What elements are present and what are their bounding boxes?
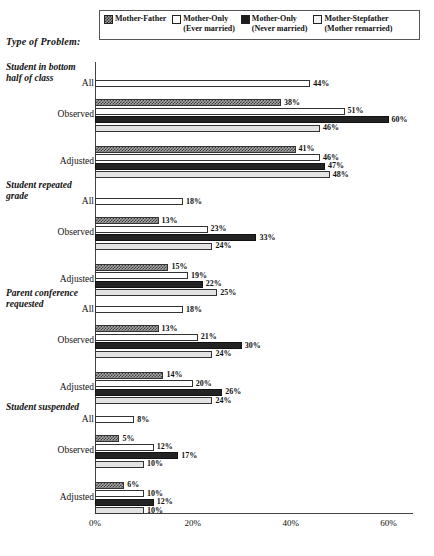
chart-legend: Mother-FatherMother-Only(Ever married)Mo…	[99, 10, 420, 40]
bar	[95, 146, 296, 153]
bar	[95, 452, 178, 459]
light-gray-swatch	[313, 15, 322, 24]
legend-item-sublabel: (Ever married)	[183, 24, 235, 34]
category-label: Adjusted	[0, 382, 94, 392]
bar	[95, 444, 154, 451]
category-label: All	[0, 78, 94, 88]
category-label: Adjusted	[0, 492, 94, 502]
bar	[95, 416, 134, 423]
category-label: Observed	[0, 109, 94, 119]
bar	[95, 99, 281, 106]
bar	[95, 154, 320, 161]
bar	[95, 234, 256, 241]
category-label: Adjusted	[0, 156, 94, 166]
bar-value-label: 14%	[166, 370, 182, 379]
bar-value-label: 41%	[299, 144, 315, 153]
x-axis-tick-label: 40%	[282, 518, 299, 528]
bar	[95, 490, 144, 497]
bar	[95, 108, 345, 115]
bar	[95, 217, 159, 224]
bar	[95, 507, 144, 514]
bar-value-label: 18%	[186, 305, 202, 314]
bar-value-label: 13%	[162, 216, 178, 225]
bar-value-label: 30%	[245, 341, 261, 350]
bar-value-label: 17%	[181, 451, 197, 460]
bar-value-label: 44%	[313, 79, 329, 88]
x-axis-tick-label: 20%	[185, 518, 202, 528]
legend-item: Mother-Stepfather(Mother remarried)	[313, 14, 392, 33]
legend-item: Mother-Only(Never married)	[241, 14, 308, 33]
category-label: Adjusted	[0, 274, 94, 284]
bar-value-label: 10%	[147, 459, 163, 468]
bar	[95, 482, 124, 489]
bar	[95, 116, 389, 123]
bar	[95, 198, 183, 205]
bar-value-label: 22%	[206, 279, 222, 288]
bar-value-label: 48%	[333, 170, 349, 179]
legend-item-label: Mother-Stepfather(Mother remarried)	[324, 14, 392, 33]
legend-item-label: Mother-Only(Never married)	[252, 14, 308, 33]
group-title: Student suspended	[6, 402, 79, 413]
bar	[95, 342, 242, 349]
white-swatch	[172, 15, 181, 24]
bar-value-label: 15%	[171, 262, 187, 271]
bar	[95, 389, 222, 396]
bar-value-label: 10%	[147, 506, 163, 515]
plot-area: 0%20%40%60%Student in bottomhalf of clas…	[0, 62, 434, 532]
legend-item: Mother-Father	[104, 14, 166, 24]
legend-item: Mother-Only(Ever married)	[172, 14, 235, 33]
legend-item-sublabel: (Mother remarried)	[324, 24, 392, 34]
bar-value-label: 38%	[284, 98, 300, 107]
chart-axis-title: Type of Problem:	[6, 36, 80, 47]
bar	[95, 272, 188, 279]
bar-value-label: 24%	[215, 349, 231, 358]
category-label: All	[0, 414, 94, 424]
bar	[95, 289, 217, 296]
crosshatch-swatch	[104, 15, 113, 24]
bar-value-label: 23%	[211, 224, 227, 233]
x-axis-tick-label: 60%	[380, 518, 397, 528]
bar	[95, 435, 119, 442]
bar	[95, 325, 159, 332]
bar	[95, 281, 203, 288]
bar-value-label: 51%	[348, 106, 364, 115]
bar-value-label: 20%	[196, 379, 212, 388]
bar	[95, 351, 212, 358]
bar-value-label: 24%	[215, 396, 231, 405]
bar	[95, 243, 212, 250]
bar	[95, 334, 198, 341]
legend-item-sublabel: (Never married)	[252, 24, 308, 34]
bar	[95, 125, 320, 132]
bar	[95, 397, 212, 404]
bar-value-label: 21%	[201, 332, 217, 341]
bar-value-label: 12%	[157, 442, 173, 451]
bar-value-label: 6%	[127, 480, 139, 489]
bar	[95, 499, 154, 506]
category-label: Observed	[0, 227, 94, 237]
category-label: All	[0, 196, 94, 206]
bar	[95, 372, 163, 379]
bar-value-label: 33%	[259, 233, 275, 242]
bar	[95, 264, 168, 271]
bar	[95, 171, 330, 178]
bar	[95, 80, 310, 87]
bar-value-label: 24%	[215, 241, 231, 250]
bar-value-label: 8%	[137, 415, 149, 424]
bar-value-label: 5%	[122, 434, 134, 443]
bar	[95, 163, 325, 170]
category-label: Observed	[0, 335, 94, 345]
legend-item-label: Mother-Only(Ever married)	[183, 14, 235, 33]
chart-root: Mother-FatherMother-Only(Ever married)Mo…	[0, 0, 434, 556]
legend-item-label: Mother-Father	[115, 14, 166, 24]
x-axis-tick-label: 0%	[89, 518, 101, 528]
bar-value-label: 19%	[191, 271, 207, 280]
category-label: Observed	[0, 445, 94, 455]
bar	[95, 380, 193, 387]
bar-value-label: 46%	[323, 123, 339, 132]
bar	[95, 461, 144, 468]
bar	[95, 226, 208, 233]
bar-value-label: 60%	[392, 115, 408, 124]
solid-dark-swatch	[241, 15, 250, 24]
category-label: All	[0, 304, 94, 314]
bar-value-label: 13%	[162, 324, 178, 333]
